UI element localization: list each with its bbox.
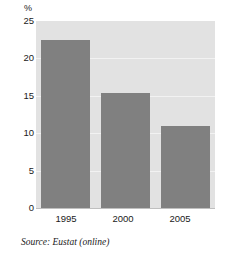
x-tick-label: 1995 — [36, 213, 96, 224]
bar-2005 — [161, 126, 210, 208]
y-tick-label: 25 — [8, 16, 34, 26]
y-tick-label: 15 — [8, 91, 34, 101]
source-caption: Source: Eustat (online) — [21, 236, 109, 248]
y-tick-label: 0 — [8, 203, 34, 213]
y-tick-label: 20 — [8, 53, 34, 63]
bar-1995 — [41, 40, 90, 208]
y-tick-label: 10 — [8, 128, 34, 138]
x-tick-label: 2000 — [93, 213, 153, 224]
y-axis-unit-label: % — [24, 3, 32, 13]
y-tick-label: 5 — [8, 166, 34, 176]
bar-2000 — [101, 93, 150, 208]
plot-area — [36, 21, 215, 208]
bar-chart-figure: % 25 20 15 10 5 0 1995 2000 2005 Source:… — [0, 0, 243, 258]
x-axis-baseline — [36, 208, 215, 209]
x-tick-label: 2005 — [150, 213, 210, 224]
